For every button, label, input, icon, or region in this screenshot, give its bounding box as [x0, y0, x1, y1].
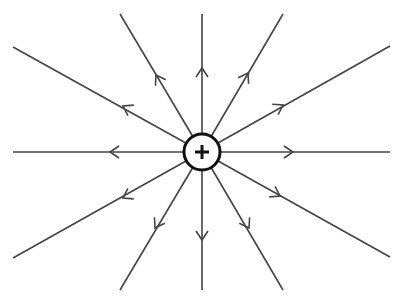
field-line-left — [13, 146, 202, 158]
field-line-upper-right-steep — [202, 14, 283, 152]
field-line-lower-left-shallow — [13, 152, 202, 258]
field-line-upper-right-shallow — [202, 46, 390, 152]
field-line — [202, 14, 283, 152]
field-line — [13, 47, 202, 152]
field-line-up — [196, 14, 208, 152]
field-line — [202, 46, 390, 152]
field-lines-canvas — [0, 0, 403, 301]
field-line-down — [196, 152, 208, 290]
field-diagram: Electric field lines of a positive point… — [0, 0, 403, 301]
field-line — [120, 14, 202, 152]
field-line — [202, 152, 390, 257]
positive-charge — [184, 134, 220, 170]
field-line-upper-left-shallow — [13, 47, 202, 152]
field-line — [13, 152, 202, 258]
field-line-lower-right-steep — [202, 152, 283, 290]
field-line-lower-right-shallow — [202, 152, 390, 257]
field-line-lower-left-steep — [120, 152, 202, 290]
field-line-right — [202, 146, 390, 158]
field-line-upper-left-steep — [120, 14, 202, 152]
field-line — [202, 152, 283, 290]
field-line — [120, 152, 202, 290]
